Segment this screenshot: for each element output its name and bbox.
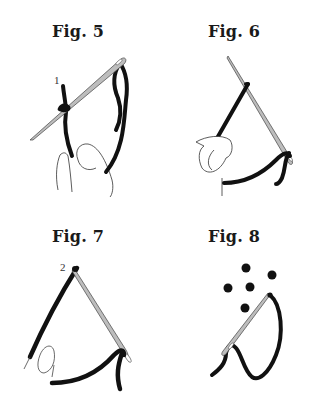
- needle-thread-illustration: 1: [0, 0, 156, 205]
- point-marker-2: 2: [60, 261, 66, 273]
- figure-8: Fig. 8: [156, 205, 312, 410]
- figure-5: Fig. 5 1: [0, 0, 156, 205]
- needle-thread-illustration: [156, 205, 312, 410]
- dots: [224, 264, 277, 313]
- needle-thread-illustration: [156, 0, 312, 205]
- needle-thread-illustration: 2: [0, 205, 156, 410]
- figure-7: Fig. 7 2: [0, 205, 156, 410]
- point-marker-1: 1: [54, 74, 60, 86]
- figure-6: Fig. 6: [156, 0, 312, 205]
